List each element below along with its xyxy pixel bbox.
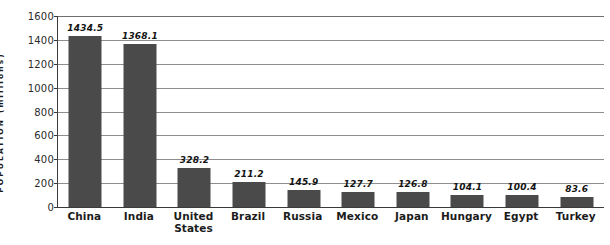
bar-group: 1434.5: [58, 16, 113, 207]
bar-chart: POPULATION (millions) 020040060080010001…: [0, 0, 610, 245]
x-category-label: Mexico: [330, 211, 385, 223]
x-category-label: Hungary: [439, 211, 494, 223]
y-axis-tick-labels: 02004006008001000120014001600: [18, 16, 54, 207]
y-tick-label: 400: [34, 154, 54, 165]
y-tick-label: 600: [34, 130, 54, 141]
bar-value-label: 1368.1: [122, 31, 158, 41]
bar-group: 1368.1: [113, 16, 168, 207]
bar-group: 145.9: [276, 16, 331, 207]
bar-group: 100.4: [495, 16, 550, 207]
bar: [396, 192, 429, 207]
bar-group: 83.6: [549, 16, 604, 207]
bar-group: 127.7: [331, 16, 386, 207]
bar-value-label: 211.2: [234, 169, 263, 179]
bar: [69, 36, 102, 207]
y-tick-mark: [54, 183, 58, 184]
x-category-label: Brazil: [221, 211, 276, 223]
x-category-label: Japan: [385, 211, 440, 223]
bar-value-label: 104.1: [453, 182, 482, 192]
bar: [506, 195, 539, 207]
x-category-label: Turkey: [548, 211, 603, 223]
plot-area: 1434.51368.1328.2211.2145.9127.7126.8104…: [57, 16, 604, 208]
bar-value-label: 83.6: [565, 184, 588, 194]
y-tick-mark: [54, 88, 58, 89]
x-category-label: India: [112, 211, 167, 223]
bar-group: 104.1: [440, 16, 495, 207]
bar-value-label: 100.4: [507, 182, 536, 192]
x-category-label: Egypt: [494, 211, 549, 223]
bar-value-label: 145.9: [289, 177, 318, 187]
y-tick-label: 1400: [28, 34, 54, 45]
bar-group: 328.2: [167, 16, 222, 207]
y-tick-mark: [54, 40, 58, 41]
bars: 1434.51368.1328.2211.2145.9127.7126.8104…: [58, 16, 604, 207]
x-category-label: China: [57, 211, 112, 223]
y-tick-mark: [54, 159, 58, 160]
bar: [287, 190, 320, 207]
bar-group: 211.2: [222, 16, 277, 207]
y-tick-label: 800: [34, 106, 54, 117]
y-tick-mark: [54, 135, 58, 136]
bar: [233, 182, 266, 207]
x-category-label: United States: [166, 211, 221, 234]
y-tick-label: 1200: [28, 58, 54, 69]
bar-value-label: 1434.5: [67, 23, 103, 33]
bar-value-label: 126.8: [398, 179, 427, 189]
bar-value-label: 127.7: [344, 179, 373, 189]
y-tick-label: 1600: [28, 11, 54, 22]
bar-value-label: 328.2: [180, 155, 209, 165]
x-category-label: Russia: [275, 211, 330, 223]
bar: [560, 197, 593, 207]
bar: [342, 192, 375, 207]
bar: [178, 168, 211, 207]
y-tick-label: 1000: [28, 82, 54, 93]
y-tick-mark: [54, 16, 58, 17]
bar: [123, 44, 156, 207]
y-tick-mark: [54, 112, 58, 113]
x-axis-category-labels: ChinaIndiaUnited StatesBrazilRussiaMexic…: [57, 211, 603, 245]
bar-group: 126.8: [386, 16, 441, 207]
y-tick-mark: [54, 207, 58, 208]
bar: [451, 195, 484, 207]
y-tick-mark: [54, 64, 58, 65]
y-tick-label: 200: [34, 178, 54, 189]
